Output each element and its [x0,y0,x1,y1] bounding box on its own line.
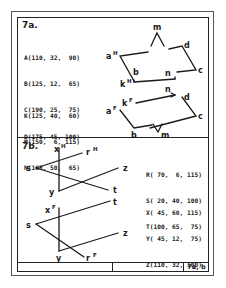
label-k-h: k [120,80,126,89]
label-x-h: x [54,145,60,154]
label-a-h: a [106,52,111,61]
label-a-f: a [106,107,111,116]
label-b-f: b [131,131,137,140]
label-n-h: n [165,69,171,78]
label-b-h: b [133,68,139,77]
label-z-h: z [123,164,128,173]
label-z-f: z [123,229,128,238]
label-c-f: c [198,112,203,121]
label-a-h-sup: H [113,50,118,56]
label-k-f-sup: F [129,97,133,103]
label-s-h: s [26,164,31,173]
label-x-h-sup: H [61,143,66,149]
label-d-f: d [184,93,190,102]
label-r-f-sup: F [93,252,97,258]
label-y-h: y [49,188,55,197]
label-d-h: d [184,41,190,50]
projection-drawings: m d a H b c n k H n d k F a F c b m x H … [0,0,226,288]
label-r-f: r [86,254,90,263]
label-n-f: n [165,85,171,94]
label-x-f: x [45,206,51,215]
label-s-f: s [26,221,31,230]
label-t-f: t [113,198,117,207]
label-r-h: r [86,148,90,157]
label-a-f-sup: F [113,105,117,111]
section-b-horizontal-view [36,148,118,191]
label-c-h: c [198,66,203,75]
label-m-h: m [153,23,161,32]
label-x-f-sup: F [52,204,56,210]
label-k-h-sup: H [127,78,132,84]
label-r-h-sup: H [93,146,98,152]
label-k-f: k [122,99,128,108]
label-t-h: t [113,186,117,195]
label-y-f: y [56,254,62,263]
label-m-f: m [161,131,169,140]
